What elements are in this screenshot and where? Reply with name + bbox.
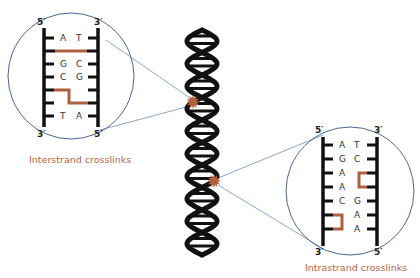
- base-left: C: [60, 73, 66, 82]
- intrastrand-inset: [286, 127, 414, 255]
- interstrand-label-bottom-left: 3′: [37, 130, 46, 139]
- interstrand-label-top-left: 5′: [37, 18, 46, 27]
- base-left: A: [339, 169, 345, 178]
- base-left: G: [339, 155, 346, 164]
- base-left: C: [339, 197, 345, 206]
- dna-helix-icon: [187, 30, 217, 255]
- base-left: A: [339, 141, 345, 150]
- intrastrand-label-top-left: 5′: [315, 126, 324, 135]
- base-left: A: [339, 183, 345, 192]
- base-right: A: [354, 211, 360, 220]
- dna-crosslink-diagram: 5′ 3′ 3′ 5′ A T G C C G T A Interstrand …: [0, 0, 420, 278]
- base-left: G: [60, 60, 67, 69]
- interstrand-inset: [8, 13, 134, 139]
- base-right: C: [354, 155, 360, 164]
- base-right: A: [76, 112, 82, 121]
- base-right: G: [354, 197, 361, 206]
- base-right: T: [354, 141, 360, 150]
- interstrand-label-bottom-right: 5′: [94, 130, 103, 139]
- intrastrand-label-bottom-right: 5′: [374, 248, 383, 257]
- base-right: T: [76, 34, 82, 43]
- base-left: A: [60, 34, 66, 43]
- base-left: T: [60, 112, 66, 121]
- base-right: G: [76, 73, 83, 82]
- interstrand-label-top-right: 3′: [94, 18, 103, 27]
- base-right: A: [354, 225, 360, 234]
- intrastrand-caption: Intrastrand crosslinks: [305, 263, 407, 273]
- intrastrand-label-top-right: 3′: [374, 126, 383, 135]
- base-right: C: [76, 60, 82, 69]
- intrastrand-label-bottom-left: 3′: [315, 248, 324, 257]
- interstrand-caption: Interstrand crosslinks: [29, 155, 131, 165]
